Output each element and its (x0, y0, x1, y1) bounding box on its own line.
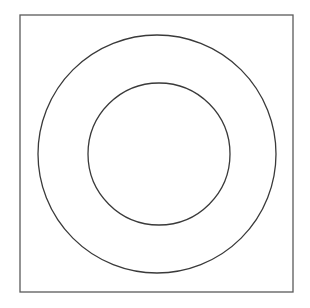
figure-background (0, 0, 310, 308)
diagram-canvas (0, 0, 310, 308)
figure-container (0, 0, 310, 308)
